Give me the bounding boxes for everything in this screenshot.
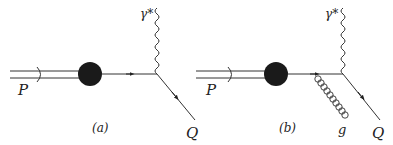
label-quark: Q [372, 124, 384, 142]
proton-double-line [196, 67, 268, 82]
label-proton: P [205, 81, 217, 99]
gluon-curly-line [315, 76, 348, 118]
photon-wavy-line [155, 8, 159, 74]
proton-double-line [10, 67, 80, 82]
quark-out-line [343, 74, 380, 120]
feynman-diagrams: P γ* Q (a) P γ* g Q [0, 0, 393, 145]
photon-wavy-line [341, 8, 345, 74]
pdf-blob [264, 62, 288, 86]
diagram-a: P γ* Q (a) [10, 7, 198, 142]
label-proton: P [17, 81, 29, 99]
caption-a: (a) [92, 121, 109, 135]
pdf-blob [78, 62, 102, 86]
label-photon: γ* [140, 7, 153, 21]
label-gluon: g [338, 122, 346, 137]
label-photon: γ* [325, 7, 338, 21]
label-quark: Q [186, 124, 198, 142]
diagram-b: P γ* g Q (b) [196, 7, 384, 142]
caption-b: (b) [279, 121, 296, 135]
